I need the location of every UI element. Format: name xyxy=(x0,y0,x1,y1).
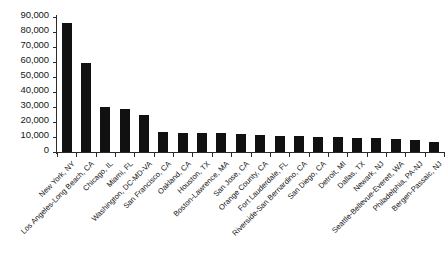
y-axis-tick-label: 10,000 xyxy=(21,130,49,140)
bar xyxy=(294,136,304,152)
bar xyxy=(410,140,420,152)
x-axis-tick-mark xyxy=(367,153,368,157)
x-axis-tick-mark xyxy=(154,153,155,157)
bar xyxy=(100,107,110,152)
bar-chart: 010,00020,00030,00040,00050,00060,00070,… xyxy=(0,0,448,272)
plot-area xyxy=(57,17,444,152)
bar xyxy=(313,137,323,152)
x-axis-tick-mark xyxy=(96,153,97,157)
x-axis-tick-mark xyxy=(270,153,271,157)
y-axis-tick-label: 30,000 xyxy=(21,100,49,110)
bar xyxy=(352,138,362,152)
x-axis-tick-mark xyxy=(231,153,232,157)
x-axis-tick-mark xyxy=(251,153,252,157)
bar xyxy=(371,138,381,152)
x-axis-tick-mark xyxy=(76,153,77,157)
x-axis-tick-mark xyxy=(192,153,193,157)
y-axis-tick-label: 20,000 xyxy=(21,115,49,125)
x-axis-tick-mark xyxy=(347,153,348,157)
x-axis-tick-mark xyxy=(386,153,387,157)
bar xyxy=(333,137,343,152)
bar xyxy=(120,109,130,153)
x-axis-tick-mark xyxy=(134,153,135,157)
bar xyxy=(178,133,188,152)
x-axis-tick-mark xyxy=(405,153,406,157)
x-axis-tick-mark xyxy=(212,153,213,157)
y-axis-tick-label: 50,000 xyxy=(21,70,49,80)
x-axis-tick-mark xyxy=(328,153,329,157)
y-axis-tick-label: 70,000 xyxy=(21,40,49,50)
x-axis-tick-mark xyxy=(444,153,445,157)
y-axis-tick-label: 80,000 xyxy=(21,25,49,35)
y-axis-tick-label: 60,000 xyxy=(21,55,49,65)
bar xyxy=(391,139,401,152)
x-axis-tick-mark xyxy=(425,153,426,157)
x-axis-tick-mark xyxy=(289,153,290,157)
y-axis-tick-label: 90,000 xyxy=(21,10,49,20)
bar xyxy=(216,133,226,152)
x-axis-tick-mark xyxy=(173,153,174,157)
bar xyxy=(236,134,246,152)
bar xyxy=(62,23,72,152)
y-axis-tick-label: 0 xyxy=(44,145,49,155)
bar xyxy=(197,133,207,152)
y-axis-tick-label: 40,000 xyxy=(21,85,49,95)
bar xyxy=(81,63,91,152)
x-axis-tick-mark xyxy=(57,153,58,157)
bar xyxy=(139,115,149,152)
x-axis-tick-mark xyxy=(115,153,116,157)
x-axis-tick-mark xyxy=(309,153,310,157)
bar xyxy=(255,135,265,152)
bar xyxy=(275,136,285,152)
bar xyxy=(158,132,168,152)
bar xyxy=(429,142,439,153)
